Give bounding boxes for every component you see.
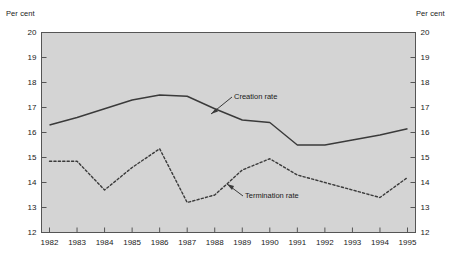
y-axis-tick-label-left: 12: [21, 228, 37, 237]
plot-background: [42, 33, 416, 233]
y-axis-tick-label-left: 13: [21, 203, 37, 212]
x-axis-tick-label: 1983: [62, 238, 92, 247]
x-axis-tick-label: 1986: [145, 238, 175, 247]
y-axis-tick-label-left: 19: [21, 53, 37, 62]
y-axis-tick-label-right: 14: [421, 178, 437, 187]
x-axis-tick-label: 1988: [200, 238, 230, 247]
x-axis-tick-label: 1985: [117, 238, 147, 247]
y-axis-tick-label-right: 13: [421, 203, 437, 212]
x-axis-tick-label: 1992: [310, 238, 340, 247]
x-axis-tick-label: 1994: [365, 238, 395, 247]
plot-area: [0, 0, 459, 264]
x-axis-tick-label: 1991: [282, 238, 312, 247]
annotation-creation-rate: Creation rate: [234, 92, 277, 101]
y-axis-tick-label-left: 18: [21, 78, 37, 87]
y-axis-tick-label-right: 15: [421, 153, 437, 162]
y-axis-tick-label-right: 12: [421, 228, 437, 237]
y-axis-tick-label-left: 16: [21, 128, 37, 137]
x-axis-tick-label: 1982: [35, 238, 65, 247]
chart-container: Per cent Per cent 121314151617181920 121…: [0, 0, 459, 264]
x-axis-tick-label: 1989: [227, 238, 257, 247]
x-axis-tick-label: 1995: [393, 238, 423, 247]
y-axis-tick-label-left: 15: [21, 153, 37, 162]
y-axis-tick-label-right: 16: [421, 128, 437, 137]
y-axis-tick-label-left: 17: [21, 103, 37, 112]
y-axis-tick-label-right: 18: [421, 78, 437, 87]
x-axis-tick-label: 1990: [255, 238, 285, 247]
annotation-termination-rate: Termination rate: [245, 191, 299, 200]
y-axis-tick-label-left: 20: [21, 28, 37, 37]
x-axis-tick-label: 1993: [337, 238, 367, 247]
y-axis-tick-label-right: 19: [421, 53, 437, 62]
x-axis-tick-label: 1984: [90, 238, 120, 247]
x-axis-tick-label: 1987: [172, 238, 202, 247]
y-axis-tick-label-right: 20: [421, 28, 437, 37]
y-axis-tick-label-left: 14: [21, 178, 37, 187]
y-axis-tick-label-right: 17: [421, 103, 437, 112]
